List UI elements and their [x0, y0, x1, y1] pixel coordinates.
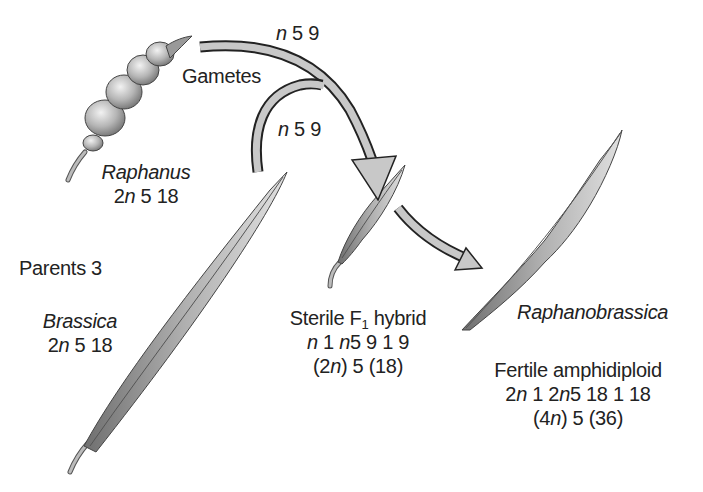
haploid-symbol: n [550, 407, 561, 429]
haploid-symbol: n [125, 185, 136, 207]
raphanus-name: Raphanus [96, 160, 196, 184]
f1-hybrid-label: Sterile F1 hybrid n 1 n5 9 1 9 (2n) 5 (1… [258, 306, 458, 378]
ploidy-prefix: 2 [114, 185, 125, 207]
total-prefix: (4 [533, 407, 550, 429]
haploid-symbol: n [307, 331, 318, 353]
gamete-label-bottom: n 5 9 [278, 117, 321, 141]
gametes-label: Gametes [182, 64, 261, 88]
gamete-bottom-value: 5 9 [294, 118, 321, 140]
chromosome-value: 5 18 [141, 185, 179, 207]
f1-formula-value: 5 9 1 9 [350, 331, 409, 353]
raphanus-label: Raphanus 2n 5 18 [96, 160, 196, 208]
amphidiploid-total: (4n) 5 (36) [468, 406, 688, 430]
amphidiploid-formula: 2n 1 2n5 18 1 18 [468, 382, 688, 406]
ploidy-prefix: 2 [48, 334, 59, 356]
f1-formula: n 1 n5 9 1 9 [258, 330, 458, 354]
f1-title: Sterile F1 hybrid [258, 306, 458, 330]
ploidy-prefix: 2 [505, 383, 516, 405]
gamete-top-value: 5 9 [292, 22, 319, 44]
f1-title-suffix: hybrid [368, 307, 426, 329]
amphidiploid-label: Fertile amphidiploid 2n 1 2n5 18 1 18 (4… [468, 358, 688, 430]
formula-value: 5 18 1 18 [570, 383, 651, 405]
formula-mid: 1 2 [527, 383, 559, 405]
f1-total: (2n) 5 (18) [258, 354, 458, 378]
f1-title-text: Sterile F [290, 307, 362, 329]
amphidiploid-title: Fertile amphidiploid [468, 358, 688, 382]
plus-symbol: 1 [318, 331, 339, 353]
gamete-label-top: n 5 9 [276, 21, 319, 45]
haploid-symbol: n [278, 118, 289, 140]
haploid-symbol: n [516, 383, 527, 405]
haploid-symbol: n [59, 334, 70, 356]
brassica-name: Brassica [30, 309, 130, 333]
chromosome-value: 5 18 [75, 334, 113, 356]
f1-total-prefix: (2 [313, 355, 330, 377]
haploid-symbol: n [330, 355, 341, 377]
raphanus-chromosomes: 2n 5 18 [96, 184, 196, 208]
haploid-symbol: n [276, 22, 287, 44]
brassica-chromosomes: 2n 5 18 [30, 333, 130, 357]
parents-label: Parents 3 [19, 256, 102, 280]
f1-total-value: ) 5 (18) [341, 355, 403, 377]
haploid-symbol: n [339, 331, 350, 353]
haploid-symbol: n [559, 383, 570, 405]
total-value: ) 5 (36) [561, 407, 623, 429]
doubling-arrow [398, 208, 482, 270]
raphanus-pod-icon [68, 36, 192, 180]
raphanobrassica-name: Raphanobrassica [517, 300, 668, 324]
brassica-label: Brassica 2n 5 18 [30, 309, 130, 357]
